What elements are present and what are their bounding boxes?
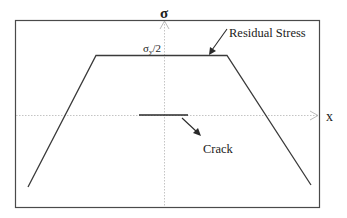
crack-pointer [182,118,197,132]
residual-stress-pointer [212,29,227,50]
plateau-label: σy/2 [143,42,161,56]
plateau-suffix: /2 [152,42,161,54]
plot-frame [16,21,320,208]
residual-stress-diagram: σ x σy/2 Residual Stress Crack [0,0,347,218]
crack-label: Crack [203,142,234,156]
residual-stress-label: Residual Stress [229,26,306,40]
y-axis-label: σ [160,5,169,21]
x-axis-label: x [326,109,333,124]
residual-stress-arrowhead-icon [209,47,216,55]
residual-stress-profile [28,56,311,188]
